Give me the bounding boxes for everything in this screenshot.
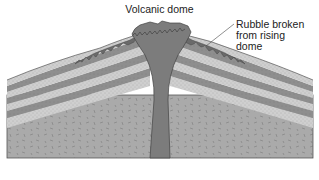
rubble-annotation: Rubble broken from rising dome [236,19,304,52]
rubble-annotation-line: dome [236,41,304,52]
rubble-leader-line [206,24,234,46]
title-label: Volcanic dome [0,4,319,15]
